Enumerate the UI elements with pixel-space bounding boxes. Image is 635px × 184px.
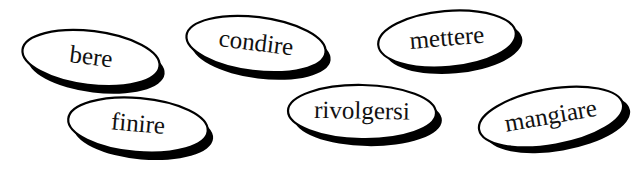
word-bubble[interactable]: finire [40,66,236,184]
bubble-label: rivolgersi [314,96,410,125]
word-bubble[interactable]: rivolgersi [263,59,461,164]
bubble-label: finire [110,107,166,139]
